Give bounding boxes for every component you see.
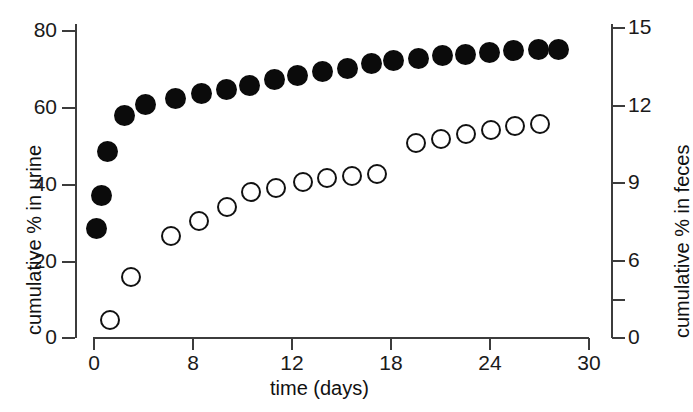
data-point-feces	[456, 124, 476, 144]
data-point-urine	[528, 39, 549, 60]
data-point-feces	[266, 178, 286, 198]
data-point-urine	[114, 105, 135, 126]
data-point-urine	[287, 65, 308, 86]
data-point-feces	[505, 116, 525, 136]
data-point-urine	[191, 83, 212, 104]
data-point-urine	[455, 44, 476, 65]
data-point-urine	[361, 53, 382, 74]
data-point-urine	[165, 88, 186, 109]
data-point-feces	[367, 164, 387, 184]
data-point-urine	[264, 69, 285, 90]
data-point-feces	[293, 172, 313, 192]
data-point-urine	[408, 48, 429, 69]
data-point-feces	[189, 211, 209, 231]
data-point-feces	[241, 182, 261, 202]
data-point-urine	[479, 42, 500, 63]
data-point-urine	[239, 75, 260, 96]
data-point-urine	[216, 79, 237, 100]
data-point-feces	[217, 197, 237, 217]
data-point-urine	[312, 61, 333, 82]
data-point-urine	[135, 94, 156, 115]
data-point-feces	[121, 267, 141, 287]
data-point-feces	[481, 120, 501, 140]
data-point-feces	[317, 168, 337, 188]
data-point-feces	[431, 129, 451, 149]
data-point-feces	[161, 226, 181, 246]
data-point-urine	[383, 50, 404, 71]
data-point-urine	[432, 45, 453, 66]
data-point-feces	[406, 133, 426, 153]
data-point-urine	[503, 40, 524, 61]
data-point-feces	[342, 166, 362, 186]
data-point-urine	[548, 39, 569, 60]
data-point-feces	[100, 310, 120, 330]
data-point-feces	[530, 114, 550, 134]
data-point-urine	[337, 58, 358, 79]
data-point-urine	[91, 185, 112, 206]
data-point-urine	[86, 218, 107, 239]
data-point-urine	[97, 141, 118, 162]
